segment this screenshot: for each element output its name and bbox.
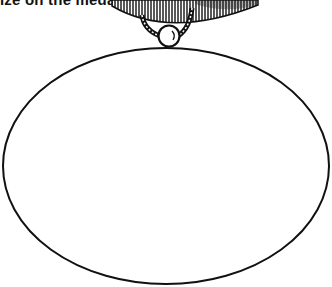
medal-blank-ellipse xyxy=(3,48,329,284)
ribbon-hanger-icon xyxy=(112,0,258,36)
ball-ring-icon xyxy=(159,26,180,47)
medal-illustration xyxy=(0,0,332,287)
